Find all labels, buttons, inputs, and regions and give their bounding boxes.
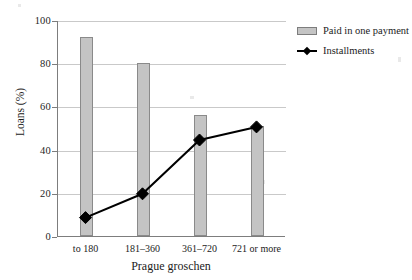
- x-tick-label-721-or-more: 721 or more: [219, 243, 294, 254]
- legend-label-installments: Installments: [323, 45, 374, 56]
- bar-181-360: [137, 63, 150, 236]
- y-axis-title: Loans (%): [14, 32, 26, 192]
- bar-721-or-more: [251, 126, 264, 236]
- legend-item-installments: Installments: [297, 42, 409, 59]
- scan-artifact: [18, 4, 21, 7]
- bar-to-180: [80, 37, 93, 236]
- y-tick-label-0: 0: [11, 232, 51, 242]
- gridline-100: [58, 21, 286, 22]
- bar-swatch-icon: [297, 27, 317, 35]
- y-tick-label-100: 100: [11, 16, 51, 26]
- x-axis-title: Prague groschen: [57, 259, 285, 274]
- plot-area: [57, 21, 285, 237]
- y-tick-mark-0: [52, 237, 57, 238]
- legend-item-paid-in-one-payment: Paid in one payment: [297, 22, 409, 39]
- legend-label-paid-in-one-payment: Paid in one payment: [323, 25, 409, 36]
- line-diamond-swatch-icon: [297, 46, 317, 55]
- chart-figure: 100 80 60 40 20 0 Loans (%) to 180 181–3…: [0, 0, 412, 280]
- x-tick-label-181-360: 181–360: [110, 243, 175, 254]
- x-tick-label-to-180: to 180: [55, 243, 116, 254]
- bar-361-720: [194, 115, 207, 236]
- chart-legend: Paid in one payment Installments: [297, 22, 409, 62]
